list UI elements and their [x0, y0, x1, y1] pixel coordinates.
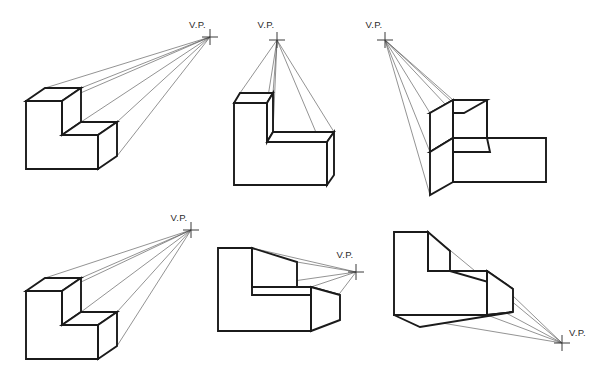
perspective-figure: V.P.: [0, 0, 601, 376]
perspective-drawing-canvas: V.P.: [0, 0, 601, 376]
vp-label: V.P.: [336, 249, 353, 260]
vp-label: V.P.: [569, 327, 586, 338]
vp-label: V.P.: [189, 19, 206, 30]
vp-label: V.P.: [257, 19, 274, 30]
block-side-face-lower: [327, 132, 334, 185]
vp-label: V.P.: [170, 212, 187, 223]
vp-label: V.P.: [365, 19, 382, 30]
block-step-top-face: [267, 132, 334, 142]
